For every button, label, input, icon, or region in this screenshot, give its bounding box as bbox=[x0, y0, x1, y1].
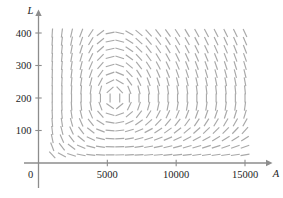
field-segment bbox=[241, 145, 249, 148]
field-segment bbox=[156, 62, 160, 70]
field-segment bbox=[185, 119, 190, 126]
field-segment bbox=[135, 120, 142, 125]
x-axis-name: A bbox=[272, 168, 280, 179]
field-segment bbox=[127, 102, 131, 110]
field-segment bbox=[223, 127, 229, 133]
field-segment bbox=[144, 137, 153, 140]
field-segment bbox=[138, 102, 141, 111]
field-segment bbox=[245, 85, 246, 94]
field-segment bbox=[88, 37, 93, 45]
field-segment bbox=[51, 134, 53, 143]
field-segment bbox=[81, 102, 82, 111]
field-segment bbox=[224, 29, 228, 37]
field-segment bbox=[116, 72, 124, 76]
field-segment bbox=[205, 110, 208, 118]
field-segment bbox=[106, 64, 115, 67]
field-segment bbox=[196, 102, 197, 111]
field-segment bbox=[147, 70, 151, 78]
field-segment bbox=[157, 77, 160, 86]
field-segment bbox=[184, 128, 191, 134]
field-segment bbox=[195, 29, 199, 37]
field-segment bbox=[116, 79, 124, 84]
field-segment bbox=[136, 38, 143, 44]
field-segment bbox=[176, 53, 180, 61]
field-segment bbox=[221, 154, 230, 155]
field-segment bbox=[137, 70, 142, 78]
field-segment bbox=[62, 110, 63, 119]
field-segment bbox=[117, 87, 123, 94]
field-segment bbox=[80, 53, 83, 62]
field-segment bbox=[106, 130, 115, 131]
field-segment bbox=[166, 69, 169, 77]
field-segment bbox=[144, 155, 153, 156]
field-segment bbox=[89, 45, 93, 53]
field-segment bbox=[214, 37, 218, 45]
field-segment bbox=[163, 154, 172, 155]
field-segment bbox=[186, 110, 189, 118]
field-segment bbox=[77, 154, 86, 156]
field-segment bbox=[87, 137, 95, 141]
field-segment bbox=[156, 54, 161, 62]
field-segment bbox=[107, 87, 114, 93]
field-segment bbox=[61, 53, 62, 62]
field-segment bbox=[203, 136, 211, 140]
field-segment bbox=[147, 78, 150, 86]
field-segment bbox=[106, 48, 115, 50]
field-segment bbox=[215, 61, 218, 70]
field-segment bbox=[58, 153, 66, 157]
field-segment bbox=[224, 61, 227, 70]
field-segment bbox=[136, 111, 142, 118]
field-segment bbox=[186, 77, 188, 86]
field-segment bbox=[71, 45, 73, 54]
field-segment bbox=[127, 78, 132, 85]
field-segment bbox=[244, 77, 246, 86]
field-segment bbox=[186, 102, 188, 111]
field-segment bbox=[167, 85, 168, 94]
field-segment bbox=[244, 53, 247, 61]
field-segment bbox=[164, 137, 172, 141]
field-segment bbox=[214, 29, 218, 37]
field-segment bbox=[86, 154, 95, 155]
field-segment bbox=[135, 146, 144, 147]
field-segment bbox=[232, 136, 240, 141]
field-segment bbox=[224, 53, 227, 61]
field-segment bbox=[80, 69, 82, 78]
field-segment bbox=[128, 86, 131, 94]
field-segment bbox=[116, 103, 123, 109]
field-segment bbox=[186, 61, 189, 69]
field-segment bbox=[97, 38, 104, 44]
field-segment bbox=[126, 55, 133, 60]
field-segment bbox=[145, 119, 152, 125]
field-segment bbox=[185, 29, 190, 37]
field-segment bbox=[166, 110, 170, 118]
field-segment bbox=[99, 102, 102, 110]
field-segment bbox=[215, 77, 217, 86]
field-segment bbox=[196, 69, 199, 78]
field-segment bbox=[225, 69, 227, 78]
field-segment bbox=[196, 85, 197, 94]
field-segment bbox=[106, 122, 115, 123]
field-segment bbox=[212, 136, 220, 141]
y-tick-label: 100 bbox=[16, 125, 32, 136]
field-segment bbox=[204, 37, 208, 45]
field-segment bbox=[176, 69, 179, 77]
field-segment bbox=[137, 78, 141, 86]
field-segment bbox=[145, 128, 153, 132]
field-segment bbox=[157, 102, 159, 111]
field-segment bbox=[202, 145, 211, 148]
field-segment bbox=[194, 119, 199, 126]
field-segment bbox=[234, 61, 237, 70]
field-segment bbox=[96, 138, 105, 140]
field-segment bbox=[61, 126, 63, 135]
field-segment bbox=[78, 136, 85, 142]
field-segment bbox=[125, 146, 134, 147]
field-segment bbox=[221, 145, 230, 148]
field-segment bbox=[115, 40, 124, 42]
field-segment bbox=[80, 37, 83, 45]
x-tick-label: 10000 bbox=[163, 169, 189, 180]
field-segment bbox=[49, 152, 55, 159]
field-segment bbox=[144, 146, 153, 148]
field-segment bbox=[136, 46, 142, 52]
y-tick-label: 300 bbox=[16, 60, 32, 71]
field-segment bbox=[90, 102, 92, 111]
